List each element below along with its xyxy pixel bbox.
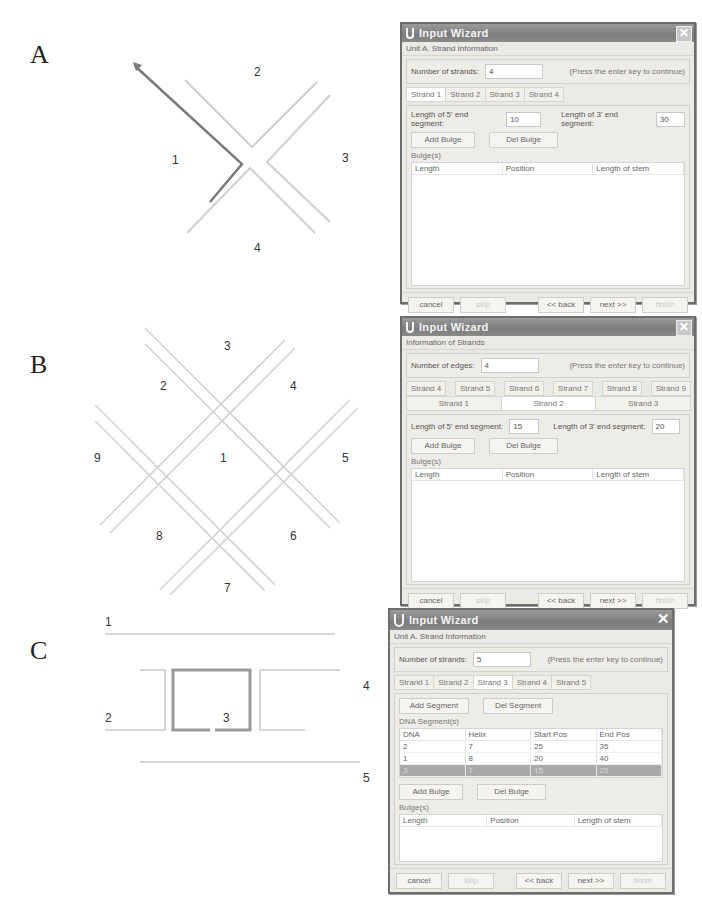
next-button[interactable]: next >> [590, 593, 636, 609]
window-title: Input Wizard [419, 27, 489, 39]
section-label: Unit A. Strand Information [402, 42, 694, 56]
title-bar[interactable]: Input Wizard ✕ [402, 318, 694, 336]
svg-text:9: 9 [94, 451, 101, 465]
strand-count-input[interactable]: 5 [473, 652, 531, 667]
svg-text:2: 2 [254, 65, 261, 79]
tab-strand-3[interactable]: Strand 3 [485, 87, 525, 102]
section-label: Unit A. Strand Information [390, 630, 672, 644]
finish-button[interactable]: finish [620, 873, 666, 889]
svg-text:4: 4 [363, 679, 370, 693]
add-bulge-button[interactable]: Add Bulge [411, 132, 475, 148]
svg-text:2: 2 [160, 379, 167, 393]
len5-input[interactable]: 10 [506, 112, 541, 127]
column-header-length[interactable]: Length [400, 815, 487, 827]
strand-count-row: Number of strands: 4 (Press the enter ke… [406, 59, 690, 84]
len3-label: Length of 3' end segment: [553, 422, 645, 431]
len3-input[interactable]: 20 [652, 419, 680, 434]
back-button[interactable]: << back [516, 873, 562, 889]
strand-count-input[interactable]: 4 [485, 64, 543, 79]
close-button[interactable]: ✕ [656, 612, 670, 626]
enter-hint: (Press the enter key to continue) [569, 361, 685, 370]
skip-button[interactable]: skip [448, 873, 494, 889]
strand-tabs: Strand 1 Strand 2 Strand 3 Strand 4 Stra… [394, 675, 668, 690]
strand-count-label: Number of strands: [411, 67, 479, 76]
column-header-dna[interactable]: DNA [400, 729, 466, 741]
tab-strand-4[interactable]: Strand 4 [512, 675, 552, 690]
title-bar[interactable]: Input Wizard ✕ [390, 610, 672, 630]
next-button[interactable]: next >> [568, 873, 614, 889]
column-header-stem-length[interactable]: Length of stem [593, 163, 684, 175]
cancel-button[interactable]: cancel [408, 297, 454, 313]
tab-strand-4[interactable]: Strand 4 [524, 87, 564, 102]
tab-strand-2[interactable]: Strand 2 [445, 87, 485, 102]
close-button[interactable]: ✕ [676, 320, 692, 336]
del-segment-button[interactable]: Del Segment [483, 698, 553, 714]
cancel-button[interactable]: cancel [408, 593, 454, 609]
strand-count-row: Number of strands: 5 (Press the enter ke… [394, 647, 668, 672]
back-button[interactable]: << back [538, 593, 584, 609]
tab-strand-7[interactable]: Strand 7 [553, 381, 593, 396]
svg-text:5: 5 [342, 451, 349, 465]
close-button[interactable]: ✕ [676, 26, 692, 42]
len5-input[interactable]: 15 [509, 419, 539, 434]
column-header-start-pos[interactable]: Start Pos [531, 729, 597, 741]
bulges-group-title: Bulge(s) [399, 803, 663, 812]
tab-strand-9[interactable]: Strand 9 [651, 381, 691, 396]
add-segment-button[interactable]: Add Segment [399, 698, 469, 714]
column-header-stem-length[interactable]: Length of stem [593, 469, 684, 481]
column-header-helix[interactable]: Helix [466, 729, 532, 741]
edge-count-input[interactable]: 4 [481, 358, 539, 373]
input-wizard-window-b: Input Wizard ✕ Information of Strands Nu… [400, 316, 696, 606]
edge-count-label: Number of edges: [411, 361, 475, 370]
skip-button[interactable]: skip [460, 593, 506, 609]
four-way-junction-diagram: 2 1 3 4 [130, 50, 360, 260]
tab-strand-1[interactable]: Strand 1 [394, 675, 434, 690]
add-bulge-button[interactable]: Add Bulge [399, 784, 463, 800]
column-header-length[interactable]: Length [412, 163, 503, 175]
strand-tabs-row-1: Strand 4 Strand 5 Strand 6 Strand 7 Stra… [406, 381, 690, 396]
tab-strand-1[interactable]: Strand 1 [406, 87, 446, 102]
column-header-length[interactable]: Length [412, 469, 503, 481]
cancel-button[interactable]: cancel [396, 873, 442, 889]
tab-strand-3[interactable]: Strand 3 [473, 675, 513, 690]
finish-button[interactable]: finish [642, 297, 688, 313]
back-button[interactable]: << back [538, 297, 584, 313]
bulges-table[interactable]: Length Position Length of stem [399, 814, 663, 862]
tab-strand-4[interactable]: Strand 4 [406, 381, 446, 396]
panel-label-c: C [30, 636, 47, 666]
title-bar[interactable]: Input Wizard ✕ [402, 24, 694, 42]
cell-start-pos: 25 [531, 741, 597, 753]
table-row[interactable]: 1 8 20 40 [400, 753, 662, 765]
del-bulge-button[interactable]: Del Bulge [489, 132, 558, 148]
cell-end-pos: 40 [597, 753, 663, 765]
column-header-stem-length[interactable]: Length of stem [575, 815, 662, 827]
tab-strand-8[interactable]: Strand 8 [602, 381, 642, 396]
cell-helix: 8 [466, 753, 532, 765]
table-row[interactable]: 2 7 25 35 [400, 741, 662, 753]
del-bulge-button[interactable]: Del Bulge [489, 438, 558, 454]
tab-strand-3[interactable]: Strand 3 [595, 396, 691, 411]
enter-hint: (Press the enter key to continue) [569, 67, 685, 76]
column-header-end-pos[interactable]: End Pos [597, 729, 663, 741]
tab-strand-5[interactable]: Strand 5 [455, 381, 495, 396]
panel-label-b: B [30, 350, 47, 380]
column-header-position[interactable]: Position [503, 469, 594, 481]
segments-table[interactable]: DNA Helix Start Pos End Pos 2 7 25 35 1 … [399, 728, 663, 778]
tab-strand-1[interactable]: Strand 1 [406, 396, 502, 411]
column-header-position[interactable]: Position [503, 163, 594, 175]
tab-strand-5[interactable]: Strand 5 [551, 675, 591, 690]
tab-strand-2[interactable]: Strand 2 [433, 675, 473, 690]
finish-button[interactable]: finish [642, 593, 688, 609]
column-header-position[interactable]: Position [487, 815, 574, 827]
add-bulge-button[interactable]: Add Bulge [411, 438, 475, 454]
next-button[interactable]: next >> [590, 297, 636, 313]
del-bulge-button[interactable]: Del Bulge [477, 784, 546, 800]
svg-text:3: 3 [223, 711, 230, 725]
len3-input[interactable]: 30 [656, 112, 685, 127]
bulges-table[interactable]: Length Position Length of stem [411, 162, 685, 286]
tab-strand-2[interactable]: Strand 2 [501, 396, 597, 411]
bulges-table[interactable]: Length Position Length of stem [411, 468, 685, 582]
skip-button[interactable]: skip [460, 297, 506, 313]
table-row-selected[interactable]: 3 7 15 25 [400, 765, 662, 777]
tab-strand-6[interactable]: Strand 6 [504, 381, 544, 396]
